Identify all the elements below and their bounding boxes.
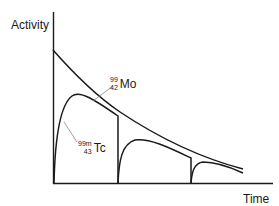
tc-symbol: Tc: [94, 142, 106, 154]
tc-mass-number: 99m: [78, 140, 92, 148]
mo-atomic-number: 42: [110, 84, 118, 92]
mo-mass-number: 99: [110, 76, 118, 84]
tc-atomic-number: 43: [78, 148, 92, 156]
tc-leader-line: [64, 122, 77, 142]
tc99m-curve-3: [191, 162, 243, 183]
tc99m-label: 99m 43 Tc: [78, 140, 106, 156]
mo99-label: 99 42 Mo: [110, 76, 136, 92]
x-axis-label: Time: [243, 193, 269, 205]
y-axis-label: Activity: [11, 19, 49, 31]
tc99m-curve-1: [54, 94, 118, 183]
mo-symbol: Mo: [120, 78, 137, 90]
